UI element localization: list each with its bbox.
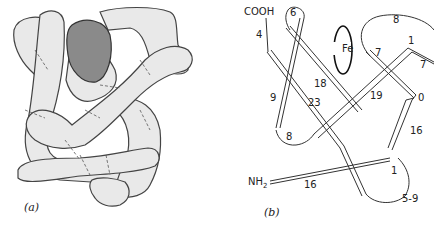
label-5-9: 5-9	[402, 193, 418, 204]
loop-8-bottom	[276, 130, 314, 145]
protein-tube-drawing: (a)	[0, 0, 230, 226]
label-4: 4	[256, 29, 262, 40]
label-1-top: 1	[408, 35, 414, 46]
caption-a: (a)	[24, 201, 39, 214]
helix-23-a	[267, 52, 340, 148]
label-19: 19	[370, 90, 383, 101]
caption-b: (b)	[264, 206, 280, 219]
label-1-bottom: 1	[391, 165, 397, 176]
label-23: 23	[308, 97, 321, 108]
label-8-bottom: 8	[286, 131, 292, 142]
strand-c-terminal	[266, 18, 268, 52]
label-16-bottom: 16	[304, 179, 317, 190]
label-8-top: 8	[393, 14, 399, 25]
panel-b-schematic: COOH 6 4 Fe 8 1 7 7 18 19 0 9 23 16 8 1 …	[230, 0, 434, 226]
helix-19-b	[318, 52, 412, 138]
helix-lower-b	[344, 146, 366, 194]
label-6: 6	[290, 7, 296, 18]
helix-16-bottom-a	[270, 158, 390, 181]
label-fe: Fe	[342, 43, 353, 54]
label-cooh: COOH	[244, 6, 274, 17]
label-7a: 7	[375, 47, 381, 58]
helix-16-right-a	[392, 95, 416, 150]
helix-schematic-drawing: COOH 6 4 Fe 8 1 7 7 18 19 0 9 23 16 8 1 …	[230, 0, 434, 226]
panel-a-tube-model: (a)	[0, 0, 230, 226]
label-16-right: 16	[410, 125, 423, 136]
label-0: 0	[418, 92, 424, 103]
helix-19-a	[314, 48, 408, 134]
helix-16-bottom-b	[270, 161, 390, 184]
helix-lower-a	[340, 148, 362, 196]
label-18: 18	[314, 78, 327, 89]
label-9: 9	[270, 92, 276, 103]
tube-segment-bottom-lumps	[90, 178, 129, 206]
helix-9-a	[276, 18, 300, 128]
label-7b: 7	[420, 59, 426, 70]
label-nh2: NH2	[248, 176, 267, 190]
